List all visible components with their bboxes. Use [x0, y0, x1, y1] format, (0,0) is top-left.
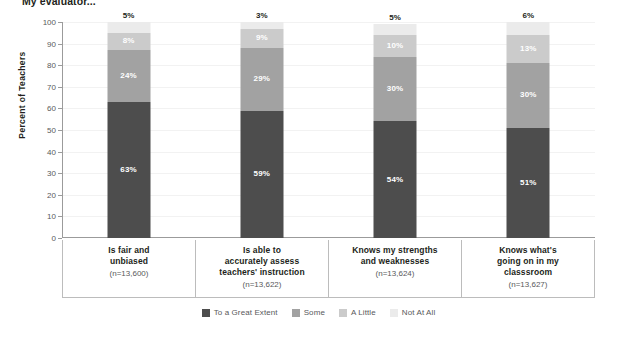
- bar-segment-value-label: 54%: [387, 176, 404, 184]
- bar-segment[interactable]: 54%: [374, 121, 417, 238]
- category-label-cell: Knows my strengths and weaknesses(n=13,6…: [329, 240, 462, 297]
- bar-group[interactable]: 59%29%9%3%: [195, 22, 328, 238]
- chart-title: My evaluator...: [22, 0, 96, 7]
- y-axis-tick-label: 50: [30, 130, 56, 131]
- bar-segment-value-label: 13%: [520, 45, 537, 53]
- bar-segment-value-label: 63%: [120, 166, 137, 174]
- category-label-cell: Is fair and unbiased(n=13,600): [63, 240, 196, 297]
- bar-group[interactable]: 63%24%8%5%: [62, 22, 195, 238]
- bar-segment-value-label: 9%: [256, 34, 268, 42]
- category-label: Knows what's going on in my classsroom: [497, 245, 559, 278]
- category-label-cell: Knows what's going on in my classsroom(n…: [462, 240, 594, 297]
- category-label: Knows my strengths and weaknesses: [352, 245, 437, 267]
- y-axis-tick-label: 40: [30, 152, 56, 153]
- category-label-cell: Is able to accurately assess teachers' i…: [196, 240, 329, 297]
- bar-segment[interactable]: 24%: [107, 50, 150, 102]
- legend-label: To a Great Extent: [214, 308, 278, 317]
- bar-segment[interactable]: 6%: [507, 22, 550, 35]
- category-label: Is fair and unbiased: [108, 245, 149, 267]
- bar-segment-value-label: 3%: [256, 12, 268, 20]
- bar-segment[interactable]: 30%: [374, 57, 417, 122]
- plot-area: 1009080706050403020100 63%24%8%5%59%29%9…: [62, 22, 595, 238]
- bar-segment[interactable]: 3%: [240, 22, 283, 28]
- y-axis-tick-label: 70: [30, 87, 56, 88]
- category-label: Is able to accurately assess teachers' i…: [219, 245, 304, 278]
- category-sample-size: (n=13,624): [376, 269, 415, 278]
- bar-segment-value-label: 6%: [522, 12, 534, 20]
- bar-segment-value-label: 10%: [387, 42, 404, 50]
- stacked-bar[interactable]: 54%30%10%5%: [374, 24, 417, 238]
- y-axis-tick-label: 20: [30, 195, 56, 196]
- y-axis-tick-mark: [58, 238, 62, 239]
- y-axis-tick-label: 10: [30, 216, 56, 217]
- y-axis-title: Percent of Teachers: [17, 25, 27, 165]
- legend-swatch-icon: [202, 309, 210, 317]
- bar-segment[interactable]: 5%: [374, 24, 417, 35]
- bar-segment[interactable]: 9%: [240, 29, 283, 48]
- bar-segment[interactable]: 63%: [107, 102, 150, 238]
- y-axis-tick-label: 60: [30, 108, 56, 109]
- bar-segment-value-label: 5%: [389, 14, 401, 22]
- legend-swatch-icon: [339, 309, 347, 317]
- category-label-box: Is fair and unbiased(n=13,600)Is able to…: [62, 240, 595, 298]
- legend-item[interactable]: Some: [292, 308, 325, 317]
- bar-segment-value-label: 30%: [387, 85, 404, 93]
- y-axis-tick-label: 80: [30, 65, 56, 66]
- legend-item[interactable]: Not At All: [390, 308, 435, 317]
- stacked-bar[interactable]: 59%29%9%3%: [240, 22, 283, 238]
- bar-segment[interactable]: 30%: [507, 63, 550, 128]
- bar-segment-value-label: 5%: [123, 12, 135, 20]
- bar-segment[interactable]: 10%: [374, 35, 417, 57]
- legend-label: A Little: [351, 308, 376, 317]
- bar-segment[interactable]: 59%: [240, 111, 283, 238]
- legend-label: Not At All: [402, 308, 435, 317]
- category-sample-size: (n=13,622): [243, 280, 282, 289]
- bar-group[interactable]: 51%30%13%6%: [462, 22, 595, 238]
- stacked-bar[interactable]: 51%30%13%6%: [507, 22, 550, 238]
- bar-segment-value-label: 51%: [520, 179, 537, 187]
- bar-segment[interactable]: 13%: [507, 35, 550, 63]
- bar-segment[interactable]: 8%: [107, 33, 150, 50]
- y-axis-tick-label: 90: [30, 44, 56, 45]
- legend-swatch-icon: [390, 309, 398, 317]
- category-sample-size: (n=13,600): [110, 269, 149, 278]
- bar-segment-value-label: 30%: [520, 91, 537, 99]
- bar-segment[interactable]: 51%: [507, 128, 550, 238]
- bar-segment[interactable]: 5%: [107, 22, 150, 33]
- category-sample-size: (n=13,627): [509, 280, 548, 289]
- bar-segment-value-label: 59%: [254, 170, 271, 178]
- bar-segment-value-label: 29%: [254, 75, 271, 83]
- bar-segment-value-label: 8%: [123, 37, 135, 45]
- y-axis-tick-label: 0: [30, 238, 56, 239]
- chart-legend: To a Great ExtentSomeA LittleNot At All: [0, 308, 637, 317]
- legend-swatch-icon: [292, 309, 300, 317]
- legend-item[interactable]: A Little: [339, 308, 376, 317]
- bar-segment[interactable]: 29%: [240, 48, 283, 111]
- stacked-bar[interactable]: 63%24%8%5%: [107, 22, 150, 238]
- legend-item[interactable]: To a Great Extent: [202, 308, 278, 317]
- bar-group[interactable]: 54%30%10%5%: [329, 22, 462, 238]
- bar-segment-value-label: 24%: [120, 72, 137, 80]
- y-axis-tick-label: 30: [30, 173, 56, 174]
- y-axis-tick-label: 100: [30, 22, 56, 23]
- legend-label: Some: [304, 308, 325, 317]
